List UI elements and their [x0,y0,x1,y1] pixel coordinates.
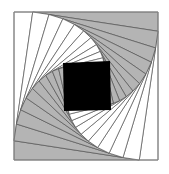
center-black-square [63,61,111,111]
spiral-squares-diagram [0,0,169,174]
